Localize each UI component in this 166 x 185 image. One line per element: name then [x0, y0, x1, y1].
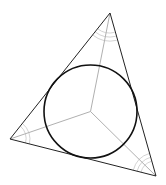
bisector-top	[91, 13, 111, 112]
incircle-diagram	[0, 0, 166, 185]
